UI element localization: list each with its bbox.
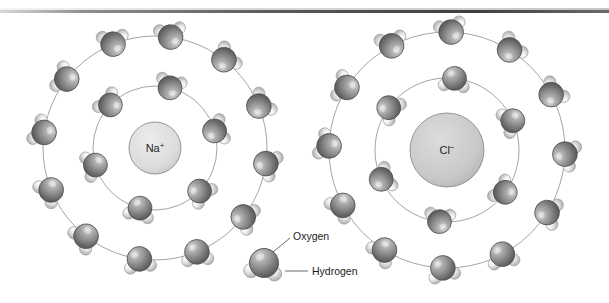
water-molecule-outer-sodium-7 — [122, 244, 158, 274]
figure-canvas: Na+Cl− OxygenHydrogen — [0, 0, 609, 303]
water-molecule-inner-sodium-2 — [199, 112, 232, 149]
water-molecule-outer-chloride-7 — [424, 252, 462, 285]
oxygen-sphere — [367, 233, 402, 268]
oxygen-sphere — [183, 174, 217, 208]
oxygen-sphere — [242, 89, 277, 124]
legend-label-hydrogen: Hydrogen — [312, 265, 358, 277]
oxygen-leader-line — [273, 238, 290, 252]
water-molecule-outer-chloride-11 — [329, 68, 363, 106]
water-molecule-layer — [25, 15, 583, 286]
legend-water-molecule — [243, 246, 285, 282]
oxygen-sphere — [372, 91, 405, 124]
water-molecule-outer-chloride-5 — [531, 194, 565, 232]
oxygen-sphere — [325, 188, 360, 223]
water-molecule-outer-sodium-12 — [96, 29, 131, 58]
ion-core-layer: Na+Cl− — [129, 113, 484, 187]
oxygen-sphere — [207, 42, 242, 77]
oxygen-sphere — [489, 176, 522, 209]
water-molecule-outer-sodium-6 — [180, 238, 215, 267]
ion-core-sodium: Na+ — [129, 122, 181, 174]
oxygen-sphere — [69, 219, 104, 254]
water-molecule-inner-sodium-6 — [90, 84, 130, 124]
water-molecule-inner-chloride-4 — [423, 207, 457, 236]
oxygen-sphere — [93, 88, 127, 122]
water-molecule-outer-sodium-9 — [30, 170, 71, 212]
water-molecule-inner-chloride-2 — [494, 102, 530, 141]
water-molecule-outer-chloride-4 — [548, 135, 583, 174]
ion-core-chloride: Cl− — [410, 113, 484, 187]
water-molecule-outer-chloride-9 — [322, 185, 363, 226]
oxygen-sphere — [492, 32, 527, 67]
water-molecule-outer-chloride-3 — [531, 73, 572, 114]
water-molecule-inner-sodium-4 — [122, 193, 158, 225]
water-molecule-inner-sodium-3 — [180, 172, 220, 212]
water-molecule-outer-sodium-1 — [153, 21, 189, 51]
water-molecule-outer-chloride-12 — [373, 29, 410, 61]
water-molecule-inner-chloride-5 — [364, 160, 400, 199]
oxygen-sphere — [534, 77, 569, 112]
water-molecule-outer-sodium-3 — [239, 85, 280, 127]
water-molecule-inner-sodium-1 — [152, 71, 188, 103]
oxygen-sphere — [34, 173, 69, 208]
water-molecule-outer-chloride-1 — [432, 15, 470, 48]
water-molecule-outer-sodium-5 — [226, 197, 262, 237]
water-molecule-outer-chloride-10 — [311, 126, 346, 165]
water-molecule-inner-sodium-5 — [78, 147, 111, 184]
legend-group: OxygenHydrogen — [243, 230, 358, 282]
water-molecule-outer-sodium-11 — [48, 59, 84, 99]
water-molecule-outer-chloride-6 — [484, 239, 521, 271]
water-molecule-inner-chloride-1 — [438, 65, 472, 94]
legend-label-oxygen: Oxygen — [293, 230, 329, 242]
water-molecule-outer-chloride-2 — [490, 29, 531, 71]
water-molecule-inner-chloride-6 — [370, 88, 409, 128]
hydration-shell-diagram: Na+Cl− OxygenHydrogen — [0, 0, 609, 303]
water-molecule-inner-chloride-3 — [485, 172, 524, 212]
water-molecule-outer-chloride-8 — [363, 230, 404, 272]
